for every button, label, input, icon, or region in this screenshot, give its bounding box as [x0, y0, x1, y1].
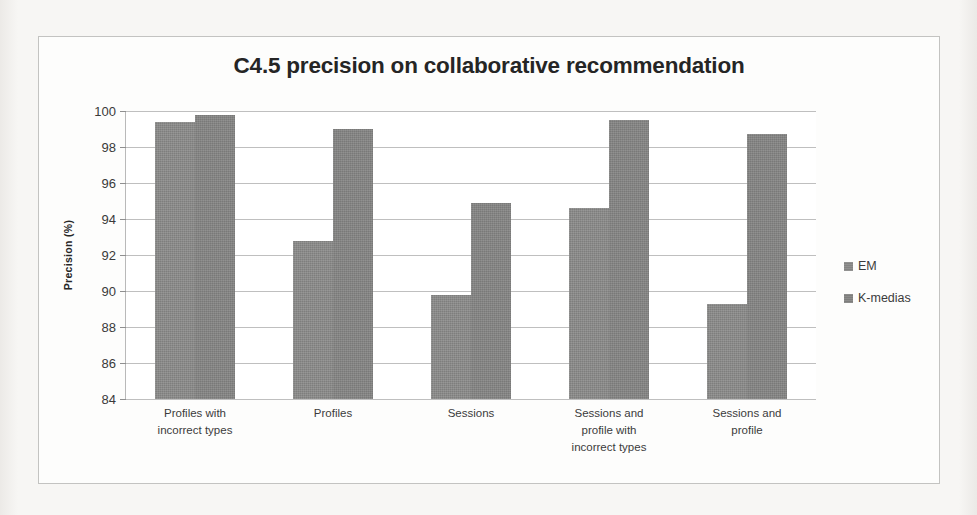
bar-k-medias[interactable]	[471, 203, 511, 399]
x-axis-category-labels: Profiles withincorrect typesProfilesSess…	[126, 405, 816, 456]
bar-group	[540, 111, 678, 399]
gridline	[126, 399, 816, 400]
chart-legend: EMK-medias	[844, 259, 934, 323]
bar-group	[126, 111, 264, 399]
x-axis-category-label: Sessions andprofile withincorrect types	[540, 405, 678, 456]
x-axis-category-label: Profiles	[264, 405, 402, 456]
category-label-line: Sessions and	[682, 405, 812, 422]
y-axis-tick-label: 96	[102, 176, 116, 191]
bar-em[interactable]	[569, 208, 609, 399]
category-label-line: Sessions and	[544, 405, 674, 422]
x-axis-category-label: Profiles withincorrect types	[126, 405, 264, 456]
category-label-line: incorrect types	[544, 439, 674, 456]
y-axis-tick-label: 92	[102, 248, 116, 263]
legend-label: K-medias	[858, 291, 911, 305]
x-axis-category-label: Sessions andprofile	[678, 405, 816, 456]
bar-em[interactable]	[155, 122, 195, 399]
legend-item[interactable]: K-medias	[844, 291, 934, 305]
bar-k-medias[interactable]	[609, 120, 649, 399]
y-axis-tick-label: 86	[102, 356, 116, 371]
y-axis-tick-label: 94	[102, 212, 116, 227]
chart-title: C4.5 precision on collaborative recommen…	[39, 53, 939, 79]
bars-layer	[126, 111, 816, 399]
legend-label: EM	[858, 259, 877, 273]
bar-em[interactable]	[431, 295, 471, 399]
bar-k-medias[interactable]	[747, 134, 787, 399]
y-axis-tick-label: 88	[102, 320, 116, 335]
category-label-line: profile	[682, 422, 812, 439]
legend-item[interactable]: EM	[844, 259, 934, 273]
bar-k-medias[interactable]	[195, 115, 235, 399]
category-label-line: profile with	[544, 422, 674, 439]
bar-group	[678, 111, 816, 399]
bar-group	[264, 111, 402, 399]
y-axis-tick-label: 84	[102, 392, 116, 407]
y-axis-tick-mark	[120, 399, 126, 400]
y-axis-tick-label: 98	[102, 140, 116, 155]
bar-k-medias[interactable]	[333, 129, 373, 399]
plot-wrapper: Precision (%) 1009896949290888684	[126, 111, 816, 399]
chart-frame: C4.5 precision on collaborative recommen…	[38, 36, 940, 484]
y-axis-tick-label: 100	[94, 104, 116, 119]
category-label-line: incorrect types	[130, 422, 260, 439]
category-label-line: Profiles with	[130, 405, 260, 422]
bar-em[interactable]	[707, 304, 747, 399]
bar-em[interactable]	[293, 241, 333, 399]
y-axis-tick-label: 90	[102, 284, 116, 299]
legend-swatch-icon	[844, 262, 853, 271]
chart-screenshot: C4.5 precision on collaborative recommen…	[0, 0, 977, 515]
y-axis-title: Precision (%)	[62, 220, 74, 290]
x-axis-category-label: Sessions	[402, 405, 540, 456]
legend-swatch-icon	[844, 294, 853, 303]
bar-group	[402, 111, 540, 399]
category-label-line: Sessions	[406, 405, 536, 422]
category-label-line: Profiles	[268, 405, 398, 422]
plot-area: 1009896949290888684	[126, 111, 816, 399]
